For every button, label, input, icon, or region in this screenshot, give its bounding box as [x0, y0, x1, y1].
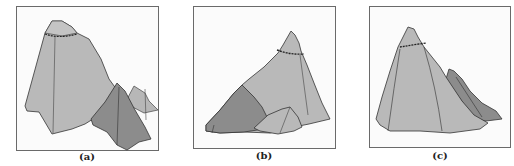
mountain-b-illustration — [194, 7, 337, 150]
panel-a-label: (a) — [67, 151, 107, 162]
panel-a-frame — [16, 6, 159, 151]
panel-b-frame — [193, 6, 336, 149]
mountain-a-illustration — [17, 7, 160, 152]
panel-c-label: (c) — [420, 150, 460, 161]
panel-b-label: (b) — [244, 150, 284, 161]
mountain-c-illustration — [370, 7, 512, 149]
panel-c-frame — [369, 6, 511, 148]
